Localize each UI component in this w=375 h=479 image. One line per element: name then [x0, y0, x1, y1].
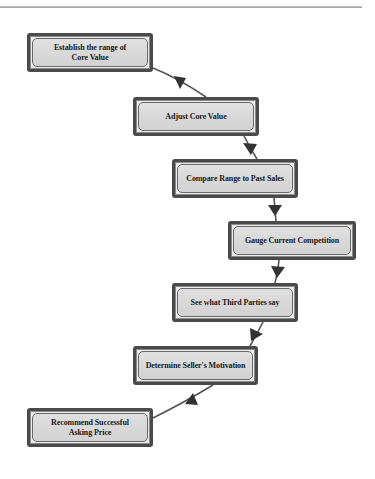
- step-4-inner: Gauge Current Competition: [233, 226, 351, 255]
- step-4-label: Gauge Current Competition: [245, 236, 339, 246]
- step-4-box: Gauge Current Competition: [228, 221, 356, 260]
- arrowhead-icon: [250, 328, 263, 341]
- arrowhead-icon: [268, 205, 282, 216]
- step-5-inner: See what Third Parties say: [177, 288, 293, 317]
- step-6-label: Determine Seller's Motivation: [146, 361, 246, 371]
- step-1-inner: Establish the range of Core Value: [32, 38, 148, 67]
- step-2-box: Adjust Core Value: [133, 97, 259, 136]
- step-7-inner: Recommend Successful Asking Price: [32, 413, 148, 442]
- step-1-box: Establish the range of Core Value: [27, 33, 153, 72]
- step-7-box: Recommend Successful Asking Price: [27, 408, 153, 447]
- step-2-label: Adjust Core Value: [165, 112, 226, 122]
- step-6-box: Determine Seller's Motivation: [133, 346, 258, 385]
- step-2-inner: Adjust Core Value: [138, 102, 254, 131]
- step-3-label: Compare Range to Past Sales: [186, 174, 284, 184]
- step-3-box: Compare Range to Past Sales: [172, 159, 298, 198]
- step-3-inner: Compare Range to Past Sales: [177, 164, 293, 193]
- step-1-label: Establish the range of Core Value: [54, 43, 126, 63]
- connector-6-7: [153, 385, 213, 418]
- step-5-label: See what Third Parties say: [191, 298, 280, 308]
- arrowhead-icon: [271, 266, 285, 278]
- step-7-label: Recommend Successful Asking Price: [51, 418, 129, 438]
- step-5-box: See what Third Parties say: [172, 283, 298, 322]
- arrowhead-icon: [243, 143, 257, 155]
- step-6-inner: Determine Seller's Motivation: [138, 351, 253, 380]
